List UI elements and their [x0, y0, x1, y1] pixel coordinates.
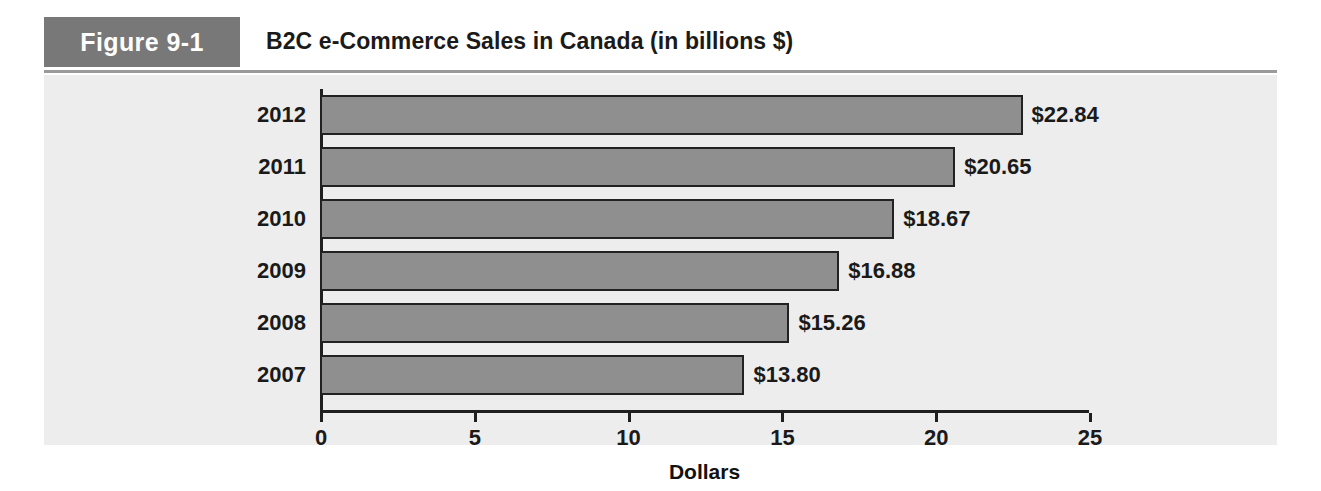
bar-row: 2007$13.80 — [44, 355, 1277, 395]
x-axis-title: Dollars — [320, 460, 1089, 484]
bar-rect[interactable] — [320, 303, 789, 343]
figure-header: Figure 9-1 B2C e-Commerce Sales in Canad… — [0, 0, 1321, 75]
x-axis-tick-label: 5 — [469, 425, 481, 451]
bar-rect[interactable] — [320, 199, 894, 239]
bar-value-label: $18.67 — [903, 206, 970, 232]
header-divider — [44, 70, 1277, 73]
chart-panel: 2012$22.842011$20.652010$18.672009$16.88… — [44, 75, 1277, 445]
x-axis-tick — [935, 413, 938, 422]
x-axis-line — [320, 410, 1089, 413]
x-axis-tick-label: 25 — [1078, 425, 1102, 451]
figure-tag-badge: Figure 9-1 — [44, 17, 240, 67]
bar-category-label: 2010 — [257, 206, 306, 232]
chart-plot-area: 2012$22.842011$20.652010$18.672009$16.88… — [44, 75, 1277, 445]
x-axis-tick-label: 20 — [924, 425, 948, 451]
bar-row: 2011$20.65 — [44, 147, 1277, 187]
bar-rect[interactable] — [320, 147, 955, 187]
x-axis-tick-label: 10 — [616, 425, 640, 451]
bar-row: 2010$18.67 — [44, 199, 1277, 239]
x-axis-tick — [628, 413, 631, 422]
bar-row: 2008$15.26 — [44, 303, 1277, 343]
x-axis-tick — [781, 413, 784, 422]
x-axis-tick-label: 0 — [315, 425, 327, 451]
bar-rect[interactable] — [320, 355, 744, 395]
bar-row: 2009$16.88 — [44, 251, 1277, 291]
x-axis-tick — [1089, 413, 1092, 422]
x-axis-tick-label: 15 — [770, 425, 794, 451]
bar-value-label: $13.80 — [753, 362, 820, 388]
bar-category-label: 2009 — [257, 258, 306, 284]
bar-row: 2012$22.84 — [44, 95, 1277, 135]
bar-category-label: 2011 — [258, 154, 306, 180]
bar-category-label: 2012 — [257, 102, 306, 128]
x-axis-tick — [474, 413, 477, 422]
x-axis-tick — [320, 413, 323, 422]
bar-value-label: $20.65 — [964, 154, 1031, 180]
figure-title: B2C e-Commerce Sales in Canada (in billi… — [266, 28, 793, 55]
bar-category-label: 2008 — [257, 310, 306, 336]
figure-tag-label: Figure 9-1 — [80, 30, 203, 55]
bar-rect[interactable] — [320, 251, 839, 291]
bar-category-label: 2007 — [257, 362, 306, 388]
bar-rect[interactable] — [320, 95, 1023, 135]
bar-value-label: $22.84 — [1032, 102, 1099, 128]
bar-value-label: $16.88 — [848, 258, 915, 284]
bar-value-label: $15.26 — [798, 310, 865, 336]
